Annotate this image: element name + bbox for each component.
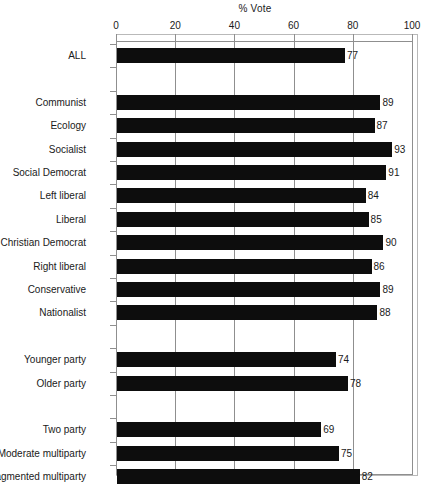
y-tick-mark xyxy=(110,67,116,68)
y-tick-mark xyxy=(110,395,116,396)
bar-row: Two party69 xyxy=(0,422,426,437)
bar xyxy=(117,165,386,180)
category-label: Social Democrat xyxy=(0,165,86,180)
bar xyxy=(117,469,360,484)
bar-value-label: 78 xyxy=(348,376,361,391)
bar-value-label: 84 xyxy=(366,188,379,203)
y-tick-mark xyxy=(110,161,116,162)
bar-row: Moderate multiparty75 xyxy=(0,446,426,461)
y-tick-mark xyxy=(110,231,116,232)
vote-bar-chart: % Vote 020406080100 ALL77Communist89Ecol… xyxy=(0,0,426,487)
y-tick-mark xyxy=(110,372,116,373)
bar-value-label: 89 xyxy=(380,282,393,297)
bar xyxy=(117,446,339,461)
category-label: Nationalist xyxy=(0,305,86,320)
x-tick-label-100: 100 xyxy=(404,20,421,31)
bar-row: Nationalist88 xyxy=(0,305,426,320)
x-tick-label-40: 40 xyxy=(229,20,240,31)
bar xyxy=(117,352,336,367)
bar-row: Socialist93 xyxy=(0,142,426,157)
bar-row: Liberal85 xyxy=(0,212,426,227)
y-tick-mark xyxy=(110,465,116,466)
bar-value-label: 85 xyxy=(369,212,382,227)
bar-value-label: 87 xyxy=(375,118,388,133)
y-tick-mark xyxy=(110,325,116,326)
y-tick-mark xyxy=(110,278,116,279)
bar xyxy=(117,305,377,320)
bar-row: Communist89 xyxy=(0,95,426,110)
bar-value-label: 69 xyxy=(321,422,334,437)
bar-row: Right liberal86 xyxy=(0,259,426,274)
bar xyxy=(117,48,345,63)
y-tick-mark xyxy=(110,442,116,443)
bar-value-label: 75 xyxy=(339,446,352,461)
x-tick-label-0: 0 xyxy=(113,20,119,31)
category-label: Conservative xyxy=(0,282,86,297)
bar-value-label: 93 xyxy=(392,142,405,157)
bar xyxy=(117,188,366,203)
category-label: ALL xyxy=(0,48,86,63)
bar xyxy=(117,376,348,391)
bar-row: Christian Democrat90 xyxy=(0,235,426,250)
category-label: Younger party xyxy=(0,352,86,367)
bar-value-label: 86 xyxy=(372,259,385,274)
bar-value-label: 91 xyxy=(386,165,399,180)
y-tick-mark xyxy=(110,138,116,139)
bar xyxy=(117,235,383,250)
y-tick-mark xyxy=(110,91,116,92)
y-tick-mark xyxy=(110,44,116,45)
y-tick-mark xyxy=(110,184,116,185)
chart-title: % Vote xyxy=(0,3,426,14)
bar-row: Conservative89 xyxy=(0,282,426,297)
bar-value-label: 82 xyxy=(360,469,373,484)
chart-title-text: % Vote xyxy=(239,3,272,14)
category-label: Liberal xyxy=(0,212,86,227)
category-label: Communist xyxy=(0,95,86,110)
category-label: Fragmented multiparty xyxy=(0,469,86,484)
bar-row: Social Democrat91 xyxy=(0,165,426,180)
bar xyxy=(117,95,380,110)
y-tick-mark xyxy=(110,418,116,419)
category-label: Two party xyxy=(0,422,86,437)
x-tick-mark-20 xyxy=(175,34,176,41)
bar xyxy=(117,259,372,274)
y-tick-mark xyxy=(110,301,116,302)
category-label: Socialist xyxy=(0,142,86,157)
x-tick-mark-0 xyxy=(116,34,117,41)
bar-row: Ecology87 xyxy=(0,118,426,133)
bar xyxy=(117,142,392,157)
bar-row: Younger party74 xyxy=(0,352,426,367)
x-tick-mark-80 xyxy=(353,34,354,41)
bar-row: ALL77 xyxy=(0,48,426,63)
category-label: Right liberal xyxy=(0,259,86,274)
bar-value-label: 90 xyxy=(383,235,396,250)
bar xyxy=(117,282,380,297)
y-tick-mark xyxy=(110,208,116,209)
bar-value-label: 77 xyxy=(345,48,358,63)
x-tick-label-60: 60 xyxy=(288,20,299,31)
category-label: Ecology xyxy=(0,118,86,133)
bar-value-label: 74 xyxy=(336,352,349,367)
category-label: Christian Democrat xyxy=(0,235,86,250)
y-tick-mark xyxy=(110,255,116,256)
x-tick-mark-60 xyxy=(294,34,295,41)
bar xyxy=(117,212,369,227)
y-tick-mark xyxy=(110,114,116,115)
bar xyxy=(117,422,321,437)
bar xyxy=(117,118,375,133)
x-tick-mark-100 xyxy=(412,34,413,41)
x-tick-label-20: 20 xyxy=(170,20,181,31)
bar-row: Older party78 xyxy=(0,376,426,391)
bar-row: Left liberal84 xyxy=(0,188,426,203)
x-tick-mark-40 xyxy=(234,34,235,41)
category-label: Moderate multiparty xyxy=(0,446,86,461)
y-tick-mark xyxy=(110,348,116,349)
bar-value-label: 88 xyxy=(377,305,390,320)
bar-value-label: 89 xyxy=(380,95,393,110)
category-label: Older party xyxy=(0,376,86,391)
x-axis-top-line xyxy=(116,41,413,42)
bar-row: Fragmented multiparty82 xyxy=(0,469,426,484)
category-label: Left liberal xyxy=(0,188,86,203)
x-tick-label-80: 80 xyxy=(347,20,358,31)
